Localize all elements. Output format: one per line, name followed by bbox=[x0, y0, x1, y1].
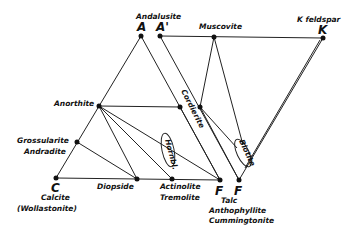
phase-diagram: Hornbl. Biotite Andalusite A A' Muscovit… bbox=[0, 0, 358, 230]
andradite-label: Andradite bbox=[23, 147, 66, 156]
tremolite-label: Tremolite bbox=[160, 193, 200, 202]
point-a bbox=[139, 34, 144, 39]
diopside-label: Diopside bbox=[97, 182, 134, 191]
tie-muscovite-cordierite bbox=[200, 37, 214, 107]
point-f1 bbox=[218, 178, 223, 183]
tie-anorthite-cordierite bbox=[99, 106, 180, 107]
vertex-a-prime-letter: A' bbox=[155, 20, 169, 34]
calcite-label: Calcite bbox=[41, 193, 70, 202]
vertex-k-letter: K bbox=[318, 23, 329, 37]
wollastonite-label: (Wollastonite) bbox=[17, 204, 77, 213]
muscovite-label: Muscovite bbox=[199, 22, 242, 31]
point-actinolite bbox=[170, 177, 175, 182]
point-c bbox=[54, 176, 59, 181]
edge-a-prime-k bbox=[160, 36, 323, 38]
tie-k-biotite bbox=[245, 40, 320, 168]
point-f2 bbox=[237, 178, 242, 183]
tie-grossularite-diopside bbox=[77, 142, 137, 179]
point-anorthite bbox=[97, 104, 102, 109]
actinolite-label: Actinolite bbox=[159, 182, 200, 191]
point-muscovite bbox=[212, 35, 217, 40]
point-grossularite bbox=[75, 140, 80, 145]
talc-label: Talc bbox=[221, 196, 238, 205]
tie-muscovite-biotite bbox=[214, 37, 243, 145]
grossularite-label: Grossularite bbox=[17, 136, 69, 145]
point-a-prime bbox=[158, 34, 163, 39]
tie-anorthite-diopside bbox=[99, 106, 137, 179]
cummingtonite-label: Cummingtonite bbox=[209, 216, 274, 225]
point-cordierite-1 bbox=[178, 105, 183, 110]
vertex-a-letter: A bbox=[136, 20, 146, 34]
point-diopside bbox=[135, 177, 140, 182]
anthophyllite-label: Anthophyllite bbox=[208, 206, 266, 215]
anorthite-label: Anorthite bbox=[53, 99, 94, 108]
